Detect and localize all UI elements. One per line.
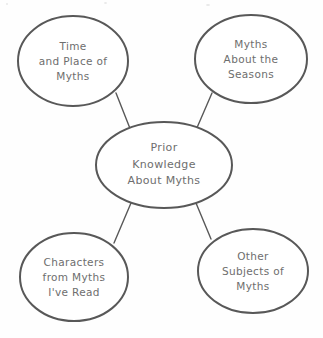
scan-artifact	[104, 2, 107, 4]
oval-other-subjects-of-myths[interactable]	[198, 229, 308, 313]
scan-artifact	[206, 4, 210, 6]
oval-layer	[18, 15, 308, 321]
connector-top-right	[196, 93, 212, 130]
oval-characters-from-myths-ive-read[interactable]	[20, 233, 128, 321]
oval-myths-about-the-seasons[interactable]	[195, 15, 307, 103]
organizer-shapes	[0, 0, 323, 338]
connector-bottom-right	[196, 203, 211, 239]
connector-top-left	[116, 93, 131, 131]
scan-artifact	[6, 3, 8, 5]
oval-time-and-place-of-myths[interactable]	[18, 16, 128, 106]
oval-prior-knowledge-about-myths[interactable]	[96, 122, 232, 208]
connector-bottom-left	[114, 203, 131, 243]
graphic-organizer-canvas: Timeand Place ofMythsMythsAbout theSeaso…	[0, 0, 323, 338]
